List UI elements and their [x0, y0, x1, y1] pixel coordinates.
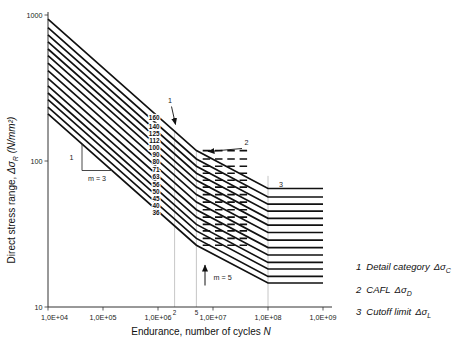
legend-text-3: Cutoff limit: [366, 306, 411, 317]
slope-m3-label: m = 3: [88, 174, 106, 183]
x-tick-label: 1,0E+05: [90, 313, 117, 322]
x-tick-label: 1,0E+09: [310, 313, 337, 322]
y-tick-label: 100: [31, 157, 43, 166]
y-axis-symbol-subscript: R: [12, 156, 19, 161]
legend-sub-3: L: [427, 312, 431, 319]
legend-num-1: 1: [356, 261, 361, 272]
legend-symbol-1: Δσ: [434, 261, 446, 272]
x-tick-label: 1,0E+04: [41, 313, 68, 322]
category-label-140: 140: [149, 123, 160, 130]
slope-m5-label: m = 5: [214, 273, 232, 282]
category-label-36: 36: [152, 209, 160, 216]
legend-item-cafl: 2CAFLΔσD: [356, 284, 451, 296]
legend-num-3: 3: [356, 306, 361, 317]
y-tick-label: 1000: [27, 11, 43, 20]
x-minor-label-2: 2: [173, 309, 177, 316]
callout-2-arrow: [208, 149, 242, 152]
x-tick-label: 1,0E+06: [145, 313, 172, 322]
sn-curve-36: [48, 114, 323, 283]
x-axis-title: Endurance, number of cycles N: [91, 326, 311, 337]
category-label-45: 45: [152, 195, 160, 202]
y-axis-unit: (N/mm²): [6, 117, 17, 156]
x-minor-label-5: 5: [195, 309, 199, 316]
category-label-80: 80: [152, 158, 160, 165]
x-axis-symbol: N: [264, 326, 271, 337]
x-tick-label: 1,0E+08: [255, 313, 282, 322]
y-axis-symbol: Δσ: [6, 161, 17, 174]
category-label-71: 71: [152, 166, 160, 173]
legend-num-2: 2: [356, 284, 361, 295]
x-axis-title-text: Endurance, number of cycles: [131, 326, 263, 337]
legend-item-cutoff-limit: 3Cutoff limitΔσL: [356, 306, 451, 318]
legend-text-2: CAFL: [366, 284, 390, 295]
legend-symbol-2: Δσ: [395, 284, 407, 295]
legend-sub-1: C: [446, 267, 451, 274]
legend-item-detail-category: 1Detail categoryΔσC: [356, 261, 451, 273]
category-label-160: 160: [149, 114, 160, 121]
legend: 1Detail categoryΔσC 2CAFLΔσD 3Cutoff lim…: [356, 261, 451, 329]
legend-sub-2: D: [407, 289, 412, 296]
callout-3-cutoff: 3: [279, 180, 283, 189]
y-tick-label: 10: [35, 303, 43, 312]
category-label-112: 112: [149, 137, 160, 144]
x-tick-label: 1,0E+07: [200, 313, 227, 322]
y-axis-title: Direct stress range, ΔσR (N/mm²): [6, 64, 20, 316]
callout-2-cafl: 2: [245, 138, 249, 147]
y-axis-title-text: Direct stress range,: [6, 174, 17, 263]
category-label-63: 63: [152, 173, 160, 180]
legend-text-1: Detail category: [366, 261, 429, 272]
slope-rise-label: 1: [70, 153, 74, 162]
callout-1-arrow: [172, 107, 176, 125]
category-label-90: 90: [152, 151, 160, 158]
sn-fatigue-curve-figure: 1,0E+041,0E+051,0E+061,0E+071,0E+081,0E+…: [0, 0, 460, 354]
legend-symbol-3: Δσ: [415, 306, 427, 317]
category-label-56: 56: [152, 181, 160, 188]
callout-1-detail-category: 1: [168, 96, 172, 105]
